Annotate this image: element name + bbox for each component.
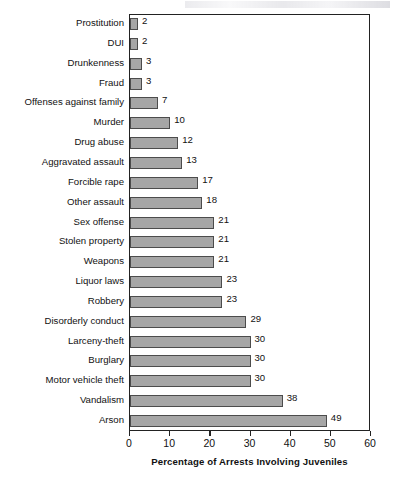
bar xyxy=(130,117,170,129)
bar xyxy=(130,177,198,189)
bar-row: Weapons21 xyxy=(0,252,396,272)
bar-fill xyxy=(130,78,142,90)
bar-value-label: 38 xyxy=(287,392,298,404)
x-axis-tick-label: 10 xyxy=(163,436,175,450)
bar-fill xyxy=(130,296,222,308)
bar-row: Larceny-theft30 xyxy=(0,332,396,352)
category-label: Robbery xyxy=(88,294,124,308)
bar-row: Stolen property21 xyxy=(0,232,396,252)
bar-row: Arson49 xyxy=(0,411,396,431)
bar-value-label: 49 xyxy=(331,412,342,424)
bar xyxy=(130,256,214,268)
bar-row: Other assault18 xyxy=(0,193,396,213)
x-axis-title: Percentage of Arrests Involving Juvenile… xyxy=(129,456,370,467)
bar xyxy=(130,97,158,109)
bar-fill xyxy=(130,18,138,30)
bar-row: Burglary30 xyxy=(0,351,396,371)
category-label: Liquor laws xyxy=(75,274,124,288)
x-axis-tick-label: 50 xyxy=(324,436,336,450)
category-label: Fraud xyxy=(99,76,124,90)
category-label: Burglary xyxy=(88,353,124,367)
x-axis-tick-label: 0 xyxy=(126,436,132,450)
bar-row: Aggravated assault13 xyxy=(0,153,396,173)
bar xyxy=(130,78,142,90)
bar-fill xyxy=(130,316,246,328)
bar xyxy=(130,296,222,308)
bar xyxy=(130,395,283,407)
category-label: Forcible rape xyxy=(68,175,124,189)
bar-value-label: 23 xyxy=(226,293,237,305)
bar-row: Vandalism38 xyxy=(0,391,396,411)
bar xyxy=(130,38,138,50)
bar-value-label: 30 xyxy=(255,372,266,384)
bar-value-label: 3 xyxy=(146,55,151,67)
category-label: Offenses against family xyxy=(24,95,124,109)
bar-row: Prostitution2 xyxy=(0,14,396,34)
category-label: Aggravated assault xyxy=(42,155,124,169)
scan-artifact xyxy=(185,1,390,8)
bar-fill xyxy=(130,38,138,50)
x-axis-tick-label: 40 xyxy=(284,436,296,450)
bar-value-label: 23 xyxy=(226,273,237,285)
bar-row: Disorderly conduct29 xyxy=(0,312,396,332)
bar-fill xyxy=(130,355,251,367)
bar-row: Drug abuse12 xyxy=(0,133,396,153)
bar-value-label: 12 xyxy=(182,134,193,146)
bar-value-label: 21 xyxy=(218,253,229,265)
category-label: Larceny-theft xyxy=(68,334,124,348)
bar xyxy=(130,375,251,387)
bar xyxy=(130,197,202,209)
x-axis-tick-label: 60 xyxy=(364,436,376,450)
bar-row: Offenses against family7 xyxy=(0,93,396,113)
bar xyxy=(130,157,182,169)
bar-row: Drunkenness3 xyxy=(0,54,396,74)
bar-value-label: 2 xyxy=(142,35,147,47)
bar-value-label: 18 xyxy=(206,194,217,206)
bar-value-label: 30 xyxy=(255,352,266,364)
bar-value-label: 30 xyxy=(255,333,266,345)
bar-fill xyxy=(130,177,198,189)
bar xyxy=(130,316,246,328)
category-label: Motor vehicle theft xyxy=(46,373,124,387)
bar xyxy=(130,58,142,70)
bar-value-label: 3 xyxy=(146,75,151,87)
bar-row: Fraud3 xyxy=(0,74,396,94)
bar-fill xyxy=(130,58,142,70)
bar-fill xyxy=(130,415,327,427)
bar-fill xyxy=(130,97,158,109)
bar-fill xyxy=(130,256,214,268)
category-label: Prostitution xyxy=(76,16,124,30)
bar-fill xyxy=(130,395,283,407)
category-label: Drug abuse xyxy=(74,135,124,149)
bar-value-label: 2 xyxy=(142,15,147,27)
bar-fill xyxy=(130,217,214,229)
bar-value-label: 21 xyxy=(218,214,229,226)
bar-value-label: 17 xyxy=(202,174,213,186)
category-label: Disorderly conduct xyxy=(45,314,124,328)
bar-fill xyxy=(130,276,222,288)
bar-fill xyxy=(130,157,182,169)
bar-fill xyxy=(130,137,178,149)
category-label: Vandalism xyxy=(80,393,124,407)
bar xyxy=(130,276,222,288)
category-label: Murder xyxy=(94,115,124,129)
bar-value-label: 13 xyxy=(186,154,197,166)
bar-row: Liquor laws23 xyxy=(0,272,396,292)
bar xyxy=(130,18,138,30)
category-label: Arson xyxy=(99,413,124,427)
bar-row: Sex offense21 xyxy=(0,213,396,233)
category-label: Other assault xyxy=(67,195,124,209)
category-label: DUI xyxy=(107,36,124,50)
bar xyxy=(130,236,214,248)
bar-value-label: 21 xyxy=(218,233,229,245)
bar xyxy=(130,336,251,348)
bar xyxy=(130,415,327,427)
x-axis-tick-labels: 0102030405060 xyxy=(0,436,396,450)
bar-value-label: 7 xyxy=(162,94,167,106)
bar-chart: Prostitution2DUI2Drunkenness3Fraud3Offen… xyxy=(0,0,396,477)
bar-value-label: 29 xyxy=(250,313,261,325)
bar-fill xyxy=(130,236,214,248)
bar-fill xyxy=(130,197,202,209)
bar xyxy=(130,355,251,367)
bar-row: Murder10 xyxy=(0,113,396,133)
